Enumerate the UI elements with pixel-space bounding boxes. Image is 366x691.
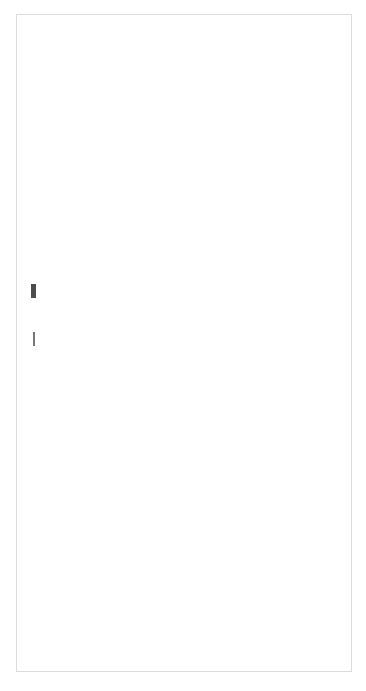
trend-line xyxy=(0,0,366,691)
